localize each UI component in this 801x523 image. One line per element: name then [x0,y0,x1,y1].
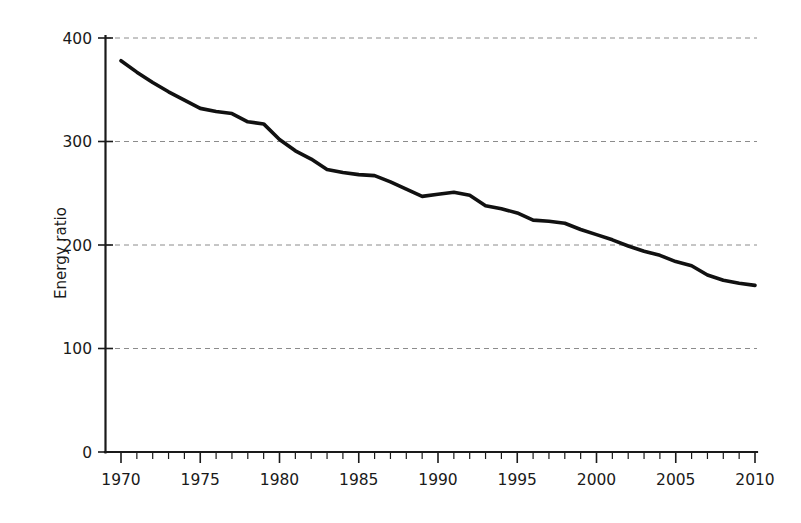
gridlines [106,38,757,349]
x-tick-label: 2010 [735,471,774,489]
x-axis-tick-labels: 197019751980198519901995200020052010 [101,471,774,489]
y-tick-label: 400 [62,30,92,48]
x-tick-label: 1975 [181,471,220,489]
x-tick-label: 1995 [498,471,537,489]
x-tick-label: 1985 [339,471,378,489]
line-chart: 0100200300400 19701975198019851990199520… [0,0,801,523]
chart-container: 0100200300400 19701975198019851990199520… [0,0,801,523]
data-series-line [121,61,755,286]
x-tick-label: 1980 [260,471,299,489]
x-axis-ticks [121,453,755,463]
y-tick-label: 100 [62,340,92,358]
y-tick-label: 0 [82,444,92,462]
x-tick-label: 1970 [101,471,140,489]
y-axis-title: Energy ratio [52,207,70,299]
x-tick-label: 2000 [577,471,616,489]
x-tick-label: 2005 [656,471,695,489]
y-tick-label: 300 [62,133,92,151]
x-tick-label: 1990 [418,471,457,489]
